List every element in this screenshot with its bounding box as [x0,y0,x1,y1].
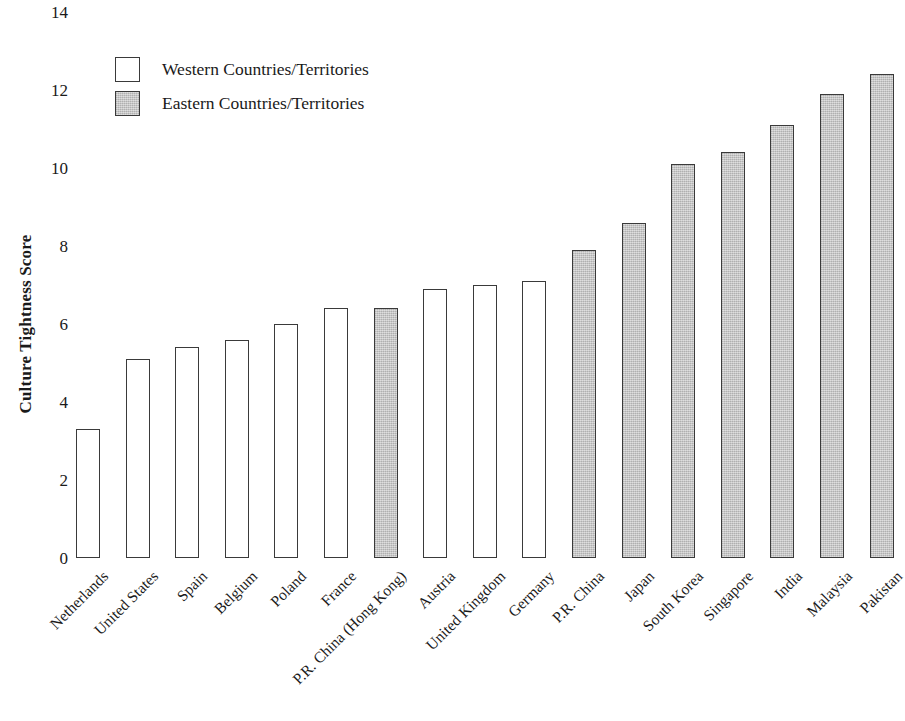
x-tick-label-text: P.R. China [549,568,607,626]
x-tick-label-p-r-china: P.R. China [549,568,607,626]
bar-united-states [126,359,150,558]
legend-label-western: Western Countries/Territories [162,59,369,80]
x-tick-label-text: India [772,568,805,601]
bar-belgium [225,340,249,558]
x-tick-label-text: Spain [174,568,210,604]
x-tick-label-text: Belgium [211,568,260,617]
bar-p-r-china-hong-kong [374,308,398,558]
bar-france [324,308,348,558]
bar-india [770,125,794,558]
x-tick-label-india: India [772,568,805,601]
bar-south-korea [671,164,695,558]
x-tick-label-text: Singapore [700,568,755,623]
x-tick-label-austria: Austria [415,568,458,611]
x-tick-label-singapore: Singapore [700,568,755,623]
x-tick-label-text: Austria [415,568,458,611]
bar-netherlands [76,429,100,558]
x-tick-label-text: Poland [268,568,309,609]
bar-p-r-china [572,250,596,558]
bar-austria [423,289,447,558]
x-tick-label-spain: Spain [174,568,210,604]
x-tick-label-japan: Japan [621,568,657,604]
bar-spain [175,347,199,558]
x-tick-label-pakistan: Pakistan [856,568,904,616]
x-tick-label-france: France [318,568,359,609]
legend-swatch-eastern [115,91,140,116]
x-tick-label-text: Malaysia [804,568,855,619]
legend-label-eastern: Eastern Countries/Territories [162,93,364,114]
chart-legend: Western Countries/TerritoriesEastern Cou… [115,52,369,120]
x-tick-label-text: France [318,568,359,609]
x-tick-label-text: Pakistan [856,568,904,616]
legend-item-western: Western Countries/Territories [115,52,369,86]
legend-item-eastern: Eastern Countries/Territories [115,86,369,120]
x-tick-label-belgium: Belgium [211,568,260,617]
x-tick-label-text: Japan [621,568,657,604]
bar-pakistan [870,74,894,558]
x-tick-label-poland: Poland [268,568,309,609]
bar-japan [622,223,646,558]
legend-swatch-western [115,57,140,82]
bar-singapore [721,152,745,558]
bar-united-kingdom [473,285,497,558]
bar-malaysia [820,94,844,558]
bar-poland [274,324,298,558]
bar-germany [522,281,546,558]
x-tick-label-malaysia: Malaysia [804,568,855,619]
